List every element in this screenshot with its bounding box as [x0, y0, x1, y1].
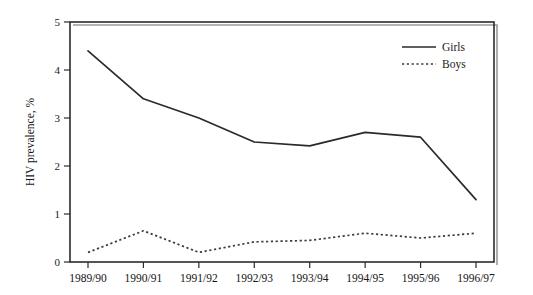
- legend-label-girls: Girls: [442, 41, 466, 53]
- legend: Girls Boys: [402, 41, 466, 71]
- y-tick-label: 2: [55, 160, 61, 172]
- y-axis: 012345: [55, 16, 71, 268]
- x-tick-label: 1989/90: [69, 272, 107, 284]
- hiv-prevalence-line-chart: 012345 1989/901990/911991/921992/931993/…: [0, 0, 533, 295]
- chart-canvas: 012345 1989/901990/911991/921992/931993/…: [0, 0, 533, 295]
- plot-frame: [70, 22, 494, 262]
- y-tick-label: 4: [55, 64, 61, 76]
- plot-frame-shadow: [73, 25, 497, 265]
- series-line-boys: [88, 231, 476, 253]
- y-tick-label: 3: [55, 112, 61, 124]
- x-tick-label: 1992/93: [235, 272, 273, 284]
- x-tick-label: 1993/94: [291, 272, 329, 284]
- x-axis: 1989/901990/911991/921992/931993/941994/…: [69, 262, 495, 284]
- y-tick-label: 0: [55, 256, 61, 268]
- x-tick-label: 1994/95: [346, 272, 384, 284]
- x-tick-label: 1991/92: [180, 272, 218, 284]
- x-tick-label: 1995/96: [402, 272, 440, 284]
- x-tick-label: 1990/91: [125, 272, 163, 284]
- y-axis-title: HIV prevalence, %: [24, 97, 37, 186]
- x-tick-label: 1996/97: [457, 272, 495, 284]
- legend-label-boys: Boys: [442, 58, 466, 71]
- series-line-girls: [88, 51, 476, 200]
- y-tick-label: 5: [55, 16, 61, 28]
- y-tick-label: 1: [55, 208, 61, 220]
